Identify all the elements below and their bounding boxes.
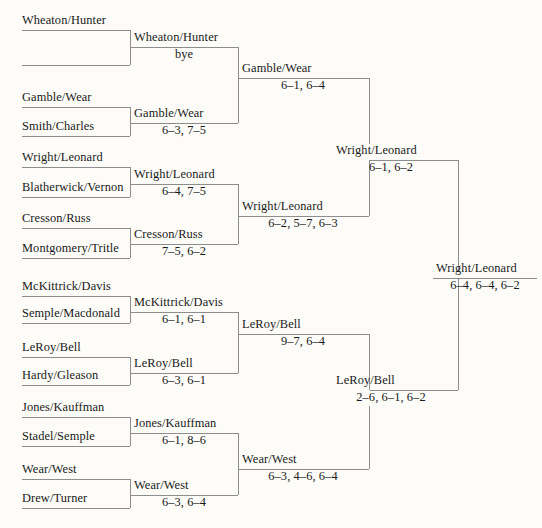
round2-score-3: 6–4, 7–5	[134, 185, 234, 198]
round1-slot-3: Gamble/Wear	[22, 91, 92, 104]
round1-slot-1: Wheaton/Hunter	[22, 14, 106, 27]
round1-connector-6	[130, 357, 131, 385]
quarterfinal-connector-4	[369, 406, 370, 469]
round2-score-7: 6–1, 8–6	[134, 434, 234, 447]
round1-slot-13: Jones/Kauffman	[22, 401, 104, 414]
round2-winner-7: Jones/Kauffman	[134, 417, 216, 430]
round2-score-2: 6–3, 7–5	[134, 124, 234, 137]
round1-slot-15: Wear/West	[22, 463, 77, 476]
round2-score-8: 6–3, 6–4	[134, 496, 234, 509]
round1-slot-10: Semple/Macdonald	[22, 307, 120, 320]
round2-winner-1: Wheaton/Hunter	[134, 31, 218, 44]
round2-winner-8: Wear/West	[134, 479, 189, 492]
round2-connector-8	[238, 453, 239, 495]
round2-winner-2: Gamble/Wear	[134, 107, 204, 120]
round2-winner-6: LeRoy/Bell	[134, 357, 193, 370]
round2-winner-4: Cresson/Russ	[134, 228, 203, 241]
round2-connector-6	[238, 330, 239, 373]
round1-underline-5	[22, 167, 130, 168]
quarterfinal-score-1: 6–1, 6–4	[242, 79, 364, 92]
quarterfinal-winner-2: Wright/Leonard	[242, 200, 323, 213]
round2-score-4: 7–5, 6–2	[134, 245, 234, 258]
round2-connector-4	[238, 216, 239, 244]
round2-winner-5: McKittrick/Davis	[134, 296, 223, 309]
quarterfinal-score-3: 9–7, 6–4	[242, 335, 364, 348]
round1-slot-8: Montgomery/Tritle	[22, 242, 119, 255]
round1-underline-16	[22, 508, 130, 509]
round1-connector-3	[130, 167, 131, 197]
round1-underline-12	[22, 385, 130, 386]
round1-slot-9: McKittrick/Davis	[22, 280, 111, 293]
semifinal-winner-1: Wright/Leonard	[336, 144, 417, 157]
round1-underline-1	[22, 30, 130, 31]
quarterfinal-winner-4: Wear/West	[242, 453, 297, 466]
round1-underline-7	[22, 228, 130, 229]
round1-slot-5: Wright/Leonard	[22, 151, 103, 164]
round2-score-1: bye	[134, 48, 234, 61]
round1-connector-7	[130, 417, 131, 446]
round2-score-5: 6–1, 6–1	[134, 313, 234, 326]
semifinal-connector-1	[458, 160, 459, 271]
round1-underline-9	[22, 296, 130, 297]
round2-connector-7	[238, 433, 239, 453]
round1-slot-14: Stadel/Semple	[22, 430, 95, 443]
round1-connector-5	[130, 296, 131, 323]
round2-connector-3	[238, 184, 239, 216]
quarterfinal-connector-1	[369, 78, 370, 144]
round1-connector-2	[130, 107, 131, 136]
round2-connector-2	[238, 111, 239, 123]
quarterfinal-winner-3: LeRoy/Bell	[242, 318, 301, 331]
quarterfinal-winner-1: Gamble/Wear	[242, 62, 312, 75]
round1-underline-11	[22, 357, 130, 358]
round1-underline-8	[22, 258, 130, 259]
final-score: 6–4, 6–4, 6–2	[433, 279, 537, 292]
round1-slot-6: Blatherwick/Vernon	[22, 181, 124, 194]
round1-underline-10	[22, 323, 130, 324]
quarterfinal-score-2: 6–2, 5–7, 6–3	[242, 217, 364, 230]
final-winner: Wright/Leonard	[436, 262, 517, 275]
round1-underline-6	[22, 197, 130, 198]
round1-slot-4: Smith/Charles	[22, 120, 94, 133]
semifinal-score-1: 6–1, 6–2	[336, 161, 446, 174]
round1-underline-13	[22, 417, 130, 418]
round1-underline-3	[22, 107, 130, 108]
round2-score-6: 6–3, 6–1	[134, 374, 234, 387]
round1-connector-4	[130, 228, 131, 258]
round2-connector-5	[238, 312, 239, 330]
quarterfinal-score-4: 6–3, 4–6, 6–4	[242, 470, 364, 483]
round2-winner-3: Wright/Leonard	[134, 168, 215, 181]
semifinal-connector-2	[458, 279, 459, 390]
round1-underline-14	[22, 446, 130, 447]
round1-underline-15	[22, 479, 130, 480]
tournament-bracket: Wheaton/Hunter Gamble/Wear Smith/Charles…	[0, 0, 542, 528]
round1-underline-2	[22, 65, 130, 66]
semifinal-score-2: 2–6, 6–1, 6–2	[336, 391, 446, 404]
round1-underline-4	[22, 136, 130, 137]
round2-connector-1	[238, 47, 239, 111]
round1-connector-8	[130, 479, 131, 508]
semifinal-winner-2: LeRoy/Bell	[336, 374, 395, 387]
round1-slot-12: Hardy/Gleason	[22, 369, 98, 382]
round1-slot-16: Drew/Turner	[22, 492, 87, 505]
round1-slot-11: LeRoy/Bell	[22, 341, 81, 354]
round1-slot-7: Cresson/Russ	[22, 212, 91, 225]
